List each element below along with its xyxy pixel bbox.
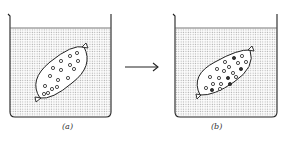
diagram-canvas xyxy=(0,0,287,143)
arrow-right-icon xyxy=(125,63,158,71)
beaker-b xyxy=(173,14,277,117)
beaker-a xyxy=(8,14,111,117)
panel-label-a: (a) xyxy=(62,122,73,131)
panel-label-b: (b) xyxy=(211,122,222,131)
